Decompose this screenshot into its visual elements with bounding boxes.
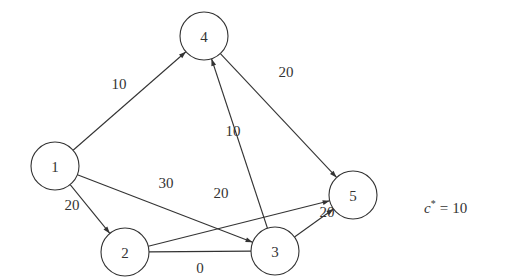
cost-relation: = [440,200,448,216]
edge-label-4-5: 20 [279,64,294,80]
edge-2-5 [148,201,329,246]
node-label: 5 [349,188,357,204]
node-label: 3 [271,244,279,260]
optimal-cost-annotation: c*=10 [424,198,467,216]
cost-value: 10 [452,200,467,216]
edge-label-3-4: 10 [226,123,241,139]
edge-1-4 [73,52,186,150]
node-3: 3 [251,227,299,275]
edge-label-2-3: 0 [196,260,204,276]
cost-superscript: * [431,198,436,209]
edge-label-2-5: 20 [214,185,229,201]
node-4: 4 [180,12,228,60]
network-diagram: 102020302010200 12345 c*=10 [0,0,507,279]
node-2: 2 [101,228,149,276]
node-1: 1 [31,142,79,190]
edge-label-1-4: 10 [112,76,127,92]
edge-line [73,52,186,150]
node-5: 5 [329,171,377,219]
node-label: 4 [200,29,208,45]
edge-3-4 [212,59,268,228]
edge-label-1-2: 20 [65,197,80,213]
edge-line [212,59,268,228]
nodes: 12345 [31,12,377,276]
edge-line [149,251,251,252]
node-label: 2 [121,245,129,261]
node-label: 1 [51,159,59,175]
edge-2-3 [149,251,251,252]
edge-label-1-3: 30 [159,175,174,191]
edges [70,52,336,252]
edge-line [148,201,329,246]
